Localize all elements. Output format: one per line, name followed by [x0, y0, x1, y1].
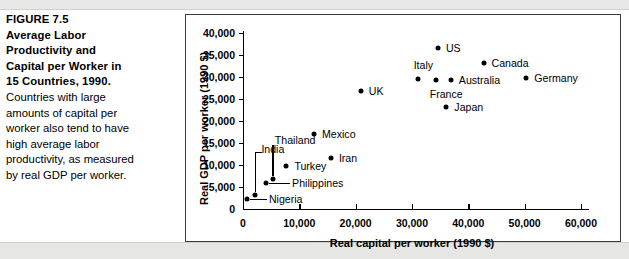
data-point[interactable]	[524, 76, 529, 81]
data-point[interactable]	[358, 89, 363, 94]
scan-band-top	[0, 0, 629, 9]
data-point-label: France	[430, 88, 463, 100]
figure-body-line-6: by real GDP per worker.	[6, 168, 178, 184]
data-point[interactable]	[415, 76, 420, 81]
x-tick	[412, 204, 413, 209]
data-point-label: Turkey	[294, 160, 326, 172]
y-tick-label: 40,000	[186, 27, 235, 39]
y-tick-label: 15,000	[186, 137, 235, 149]
data-point-label: US	[446, 42, 461, 54]
y-tick	[239, 143, 244, 144]
data-point[interactable]	[253, 192, 258, 197]
leader-line	[250, 199, 267, 200]
y-tick	[239, 121, 244, 122]
figure-title-line-2: Productivity and	[6, 43, 178, 59]
data-point-label: Italy	[414, 59, 433, 71]
x-tick-label: 40,000	[452, 217, 484, 229]
data-point-label: Philippines	[292, 177, 343, 189]
data-point[interactable]	[270, 176, 275, 181]
figure-body-line-1: Countries with large	[6, 90, 178, 106]
data-point[interactable]	[311, 131, 316, 136]
x-axis-title: Real capital per worker (1990 $)	[243, 237, 581, 249]
data-point[interactable]	[435, 45, 440, 50]
y-tick	[239, 55, 244, 56]
figure-title-line-1: Average Labor	[6, 28, 178, 44]
data-point-label: Australia	[459, 74, 500, 86]
x-tick	[525, 204, 526, 209]
figure-title-line-4: 15 Countries, 1990.	[6, 74, 178, 90]
leader-line	[272, 145, 273, 176]
x-tick-label: 60,000	[565, 217, 597, 229]
data-point-label: Canada	[492, 57, 529, 69]
data-point[interactable]	[448, 78, 453, 83]
data-point[interactable]	[433, 78, 438, 83]
data-point[interactable]	[284, 164, 289, 169]
x-tick-label: 0	[240, 217, 246, 229]
figure-body-line-3: worker also tend to have	[6, 121, 178, 137]
y-tick-label: 25,000	[186, 93, 235, 105]
data-point-label: Japan	[454, 101, 483, 113]
y-tick-label: 30,000	[186, 71, 235, 83]
y-tick	[239, 165, 244, 166]
data-point[interactable]	[481, 60, 486, 65]
data-point[interactable]	[244, 197, 249, 202]
scatter-plot: Real GDP per worker (1990 $) Real capita…	[186, 15, 622, 243]
data-point[interactable]	[264, 181, 269, 186]
data-point[interactable]	[444, 105, 449, 110]
figure-title-line-3: Capital per Worker in	[6, 59, 178, 75]
x-tick-label: 50,000	[509, 217, 541, 229]
data-point-label: Germany	[534, 72, 578, 84]
x-tick-label: 20,000	[340, 217, 372, 229]
data-point-label: Iran	[339, 152, 357, 164]
y-tick-label: 0	[186, 203, 235, 215]
figure-body-line-4: high average labor	[6, 137, 178, 153]
x-axis-line	[243, 209, 589, 210]
data-point-label: Thailand	[275, 134, 316, 146]
y-tick-label: 10,000	[186, 159, 235, 171]
data-point-label: Nigeria	[269, 193, 303, 205]
figure-caption: FIGURE 7.5 Average Labor Productivity an…	[6, 12, 178, 184]
x-tick	[581, 204, 582, 209]
y-tick	[239, 77, 244, 78]
leader-line	[255, 152, 262, 153]
x-tick	[468, 204, 469, 209]
y-tick-label: 20,000	[186, 115, 235, 127]
y-tick-label: 5,000	[186, 181, 235, 193]
leader-line	[255, 152, 256, 192]
figure-body-line-5: productivity, as measured	[6, 152, 178, 168]
data-point-label: Mexico	[322, 128, 356, 140]
y-tick-label: 35,000	[186, 49, 235, 61]
x-tick	[356, 204, 357, 209]
x-tick-label: 10,000	[283, 217, 315, 229]
data-point[interactable]	[328, 156, 333, 161]
leader-line	[269, 183, 290, 184]
data-point-label: UK	[369, 85, 384, 97]
chart-container: Real GDP per worker (1990 $) Real capita…	[185, 14, 621, 242]
scan-rule-top	[0, 9, 629, 10]
figure-body-line-2: amounts of capital per	[6, 106, 178, 122]
y-tick	[239, 99, 244, 100]
x-tick-label: 30,000	[396, 217, 428, 229]
figure-number: FIGURE 7.5	[6, 12, 178, 28]
y-tick	[239, 33, 244, 34]
y-tick	[239, 187, 244, 188]
